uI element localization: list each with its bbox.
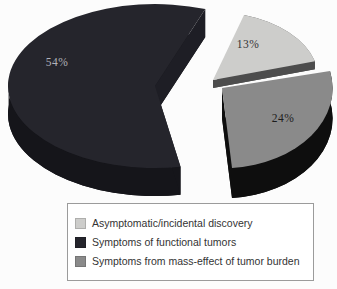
pie-slice-mass-effect-24pct: 24% bbox=[222, 71, 333, 198]
data-label-13: 13% bbox=[237, 38, 260, 50]
data-label-54: 54% bbox=[46, 56, 69, 68]
legend-swatch bbox=[75, 218, 86, 229]
pie-chart: 54% 13% 24% bbox=[0, 0, 337, 202]
legend: Asymptomatic/incidental discovery Sympto… bbox=[67, 203, 314, 281]
pie-slice-functional-tumors-54pct: 54% bbox=[8, 4, 205, 196]
pie-chart-figure: 54% 13% 24% Asymptomatic/incidental disc… bbox=[0, 0, 337, 289]
legend-label: Symptoms of functional tumors bbox=[92, 237, 236, 248]
legend-item-mass-effect: Symptoms from mass-effect of tumor burde… bbox=[75, 256, 313, 267]
legend-label: Symptoms from mass-effect of tumor burde… bbox=[92, 256, 300, 267]
legend-item-asymptomatic: Asymptomatic/incidental discovery bbox=[75, 218, 313, 229]
legend-item-functional-tumors: Symptoms of functional tumors bbox=[75, 237, 313, 248]
legend-swatch bbox=[75, 237, 86, 248]
legend-swatch bbox=[75, 256, 86, 267]
data-label-24: 24% bbox=[272, 112, 295, 124]
legend-label: Asymptomatic/incidental discovery bbox=[92, 218, 252, 229]
